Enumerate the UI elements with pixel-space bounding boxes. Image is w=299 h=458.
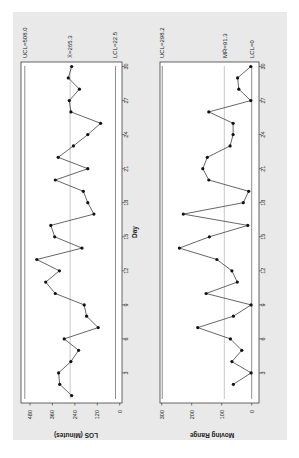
lcl-label: LCL=0 [249,39,255,58]
y-tick-label: 0 [117,410,123,413]
data-point [44,281,47,284]
data-point [206,156,209,159]
data-point [58,269,61,272]
data-point [205,292,208,295]
data-point [69,360,72,363]
data-point [232,122,235,125]
ucl-label: UCL=298.2 [159,27,165,58]
data-point [72,144,75,147]
x-tick-label: 3 [123,371,129,374]
data-point [249,65,252,68]
data-point [240,349,243,352]
data-point [35,258,38,261]
y-tick-label: 360 [49,410,55,419]
x-tick-label: 30 [123,63,129,69]
x-axis-title: Day [131,226,139,238]
y-tick-label: 100 [219,410,225,419]
data-point [78,88,81,91]
data-point [237,88,240,91]
data-point [85,315,88,318]
x-tick-label: 30 [260,63,266,69]
data-point [249,99,252,102]
data-point [57,371,60,374]
data-point [68,99,71,102]
x-tick-label: 6 [260,337,266,340]
x-tick-label: 6 [123,337,129,340]
data-point [70,394,73,397]
data-point [99,122,102,125]
data-point [232,383,235,386]
x-tick-label: 27 [260,97,266,103]
data-point [58,383,61,386]
i-chart-los: 36912151821242730 0120240360480 UCL=508.… [21,27,139,439]
data-point [230,269,233,272]
data-point [57,156,60,159]
data-point [86,167,89,170]
data-point [236,76,239,79]
data-point [236,281,239,284]
data-point [196,326,199,329]
data-point [215,258,218,261]
x-tick-label: 21 [123,166,129,172]
y-axis-title: Moving Range [189,431,234,439]
data-point [82,190,85,193]
data-point [208,235,211,238]
data-point [80,247,83,250]
data-point [70,65,73,68]
data-point [250,371,253,374]
y-tick-label: 0 [249,410,255,413]
data-point [53,235,56,238]
x-tick-label: 12 [123,268,129,274]
data-point [247,190,250,193]
y-tick-label: 240 [72,410,78,419]
data-point [232,315,235,318]
data-point [242,201,245,204]
data-point [63,337,66,340]
x-tick-label: 9 [123,303,129,306]
x-tick-label: 21 [260,166,266,172]
x-tick-label: 15 [123,234,129,240]
y-tick-label: 120 [94,410,100,419]
data-point [54,178,57,181]
data-point [232,133,235,136]
x-tick-label: 15 [260,234,266,240]
x-tick-label: 24 [260,132,266,138]
data-point [207,110,210,113]
center-label: MR̄=91.3 [222,33,228,58]
x-tick-label: 27 [123,97,129,103]
x-tick-label: 9 [260,303,266,306]
data-point [246,224,249,227]
lcl-label: LCL=22.5 [112,31,118,58]
data-point [77,349,80,352]
data-point [83,303,86,306]
data-point [201,167,204,170]
x-tick-label: 18 [123,200,129,206]
data-point [229,337,232,340]
control-chart-figure: 36912151821242730 0120240360480 UCL=508.… [0,0,299,458]
ucl-label: UCL=508.0 [22,27,28,58]
x-tick-label: 18 [260,200,266,206]
data-point [86,201,89,204]
data-point [49,224,52,227]
x-tick-label: 3 [260,371,266,374]
data-point [54,292,57,295]
x-tick-label: 24 [123,132,129,138]
data-point [97,326,100,329]
x-tick-label: 12 [260,268,266,274]
y-axis-title: LOS (Minutes) [54,431,98,439]
data-point [178,247,181,250]
y-tick-label: 300 [159,410,165,419]
data-point [250,303,253,306]
data-point [207,178,210,181]
y-tick-label: 200 [189,410,195,419]
mr-chart: 36912151821242730 0100200300 UCL=298.2 M… [159,27,266,439]
data-point [230,360,233,363]
data-point [69,110,72,113]
y-tick-label: 480 [27,410,33,419]
data-point [229,144,232,147]
data-point [182,213,185,216]
data-point [67,76,70,79]
center-label: X̄=265.3 [67,35,73,58]
data-point [86,133,89,136]
data-point [92,213,95,216]
